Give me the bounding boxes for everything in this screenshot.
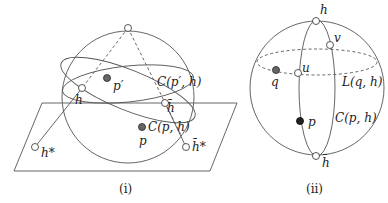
label-h-ii: h (320, 3, 328, 17)
circle-C-p-h-ii (299, 20, 335, 156)
north-pole-point (125, 25, 132, 32)
label-u: u (302, 61, 310, 75)
label-h-bar-ii: h̄ (322, 154, 330, 170)
point-q (273, 67, 280, 74)
label-p-ii: p (308, 115, 316, 129)
point-h-bar-star (183, 144, 190, 151)
label-h: h (75, 93, 83, 107)
caption-ii: (ii) (306, 182, 323, 196)
point-u (295, 70, 302, 77)
point-h-ii (313, 18, 320, 25)
figure-i: p′ h C(p′, h) h̄ C(p, h) p h* h̄* (i) (14, 25, 237, 197)
label-C-p-h-ii: C(p, h) (335, 111, 377, 125)
label-h-bar: h̄ (167, 99, 175, 115)
figure-ii: h v u q L(q, h) p C(p, h) h̄ (ii) (250, 3, 384, 196)
point-p (139, 124, 146, 131)
projection-plane (14, 103, 237, 171)
point-h-star (32, 144, 39, 151)
point-h (79, 85, 86, 92)
label-L-q-h: L(q, h) (341, 75, 383, 89)
label-p-prime: p′ (113, 79, 124, 93)
figure-canvas: p′ h C(p′, h) h̄ C(p, h) p h* h̄* (i) h … (0, 0, 388, 203)
label-h-star: h* (41, 146, 55, 160)
point-p-ii (297, 118, 304, 125)
point-h-bar-ii (313, 153, 320, 160)
point-p-prime (104, 75, 111, 82)
label-h-bar-star: h̄* (192, 138, 206, 154)
label-v: v (334, 31, 341, 45)
label-C-pprime-h: C(p′, h) (157, 75, 202, 89)
caption-i: (i) (119, 182, 132, 196)
point-v (327, 42, 334, 49)
label-p: p (139, 134, 147, 148)
label-C-p-h: C(p, h) (148, 120, 190, 134)
label-q: q (271, 75, 279, 89)
